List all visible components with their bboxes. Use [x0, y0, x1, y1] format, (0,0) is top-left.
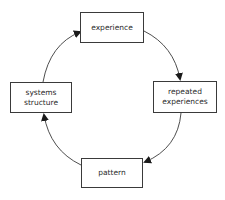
- node-pattern-label: pattern: [98, 168, 126, 178]
- arrow-repeated-to-pattern: [145, 113, 181, 162]
- arrow-systems-to-experience: [43, 32, 80, 82]
- node-experience: experience: [80, 12, 144, 43]
- arrow-experience-to-repeated: [144, 31, 180, 79]
- node-experience-label: experience: [91, 23, 133, 33]
- arrow-pattern-to-systems: [44, 115, 81, 165]
- cycle-diagram: experience repeated experiences pattern …: [0, 0, 225, 200]
- node-systems-structure: systems structure: [10, 82, 72, 113]
- node-systems-structure-label: systems structure: [24, 88, 58, 108]
- node-pattern: pattern: [81, 158, 143, 188]
- node-repeated-experiences-label: repeated experiences: [162, 87, 207, 107]
- node-repeated-experiences: repeated experiences: [153, 81, 217, 113]
